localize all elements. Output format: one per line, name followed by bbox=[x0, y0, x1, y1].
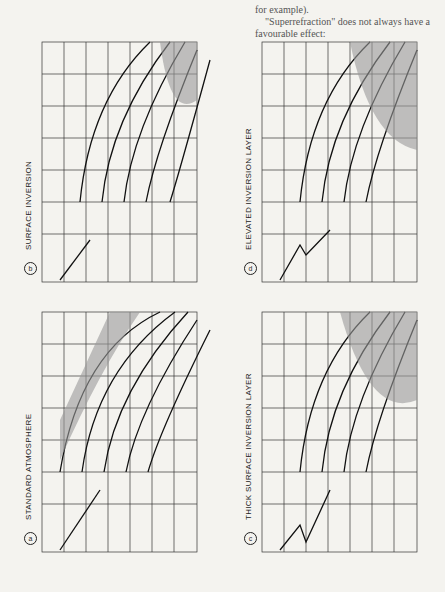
panel-title: STANDARD ATMOSPHERE bbox=[24, 414, 33, 520]
panel-thick-surface-inversion-layer: c THICK SURFACE INVERSION LAYER bbox=[240, 310, 440, 555]
coverage-diagram bbox=[20, 310, 220, 555]
coverage-diagram bbox=[240, 40, 440, 285]
panel-id-badge: d bbox=[244, 262, 257, 275]
text-line: for example). bbox=[255, 4, 445, 16]
panel-id-badge: a bbox=[24, 532, 37, 545]
panel-title: ELEVATED INVERSION LAYER bbox=[244, 128, 253, 250]
panel-id-badge: b bbox=[24, 262, 37, 275]
panel-title: THICK SURFACE INVERSION LAYER bbox=[244, 373, 253, 520]
panel-elevated-inversion-layer: d ELEVATED INVERSION LAYER bbox=[240, 40, 440, 285]
coverage-diagram bbox=[240, 310, 440, 555]
page-body-text: for example). "Superrefraction" does not… bbox=[255, 4, 445, 40]
panel-id-badge: c bbox=[244, 532, 257, 545]
coverage-diagram bbox=[20, 40, 220, 285]
text-line: "Superrefraction" does not always have a… bbox=[255, 16, 445, 40]
panel-surface-inversion: b SURFACE INVERSION bbox=[20, 40, 220, 285]
panel-standard-atmosphere: a STANDARD ATMOSPHERE bbox=[20, 310, 220, 555]
panel-title: SURFACE INVERSION bbox=[24, 161, 33, 250]
